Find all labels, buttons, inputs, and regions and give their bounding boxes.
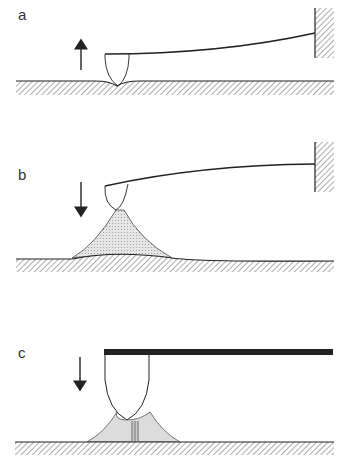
substrate-a xyxy=(16,81,334,95)
wall-support-b xyxy=(315,142,334,192)
cantilever-a xyxy=(105,33,315,54)
panel-a xyxy=(16,8,334,95)
wall-support-a xyxy=(315,8,334,58)
panel-c xyxy=(15,349,334,455)
panel-b xyxy=(16,142,334,272)
tip-a xyxy=(105,54,129,86)
cantilever-c xyxy=(104,349,333,355)
cantilever-b xyxy=(105,164,315,186)
substrate-c xyxy=(15,442,334,455)
tip-b xyxy=(105,184,128,210)
meniscus-b xyxy=(72,210,172,258)
tip-c xyxy=(105,355,149,420)
afm-meniscus-diagram xyxy=(0,0,349,469)
substrate-b xyxy=(16,254,334,272)
